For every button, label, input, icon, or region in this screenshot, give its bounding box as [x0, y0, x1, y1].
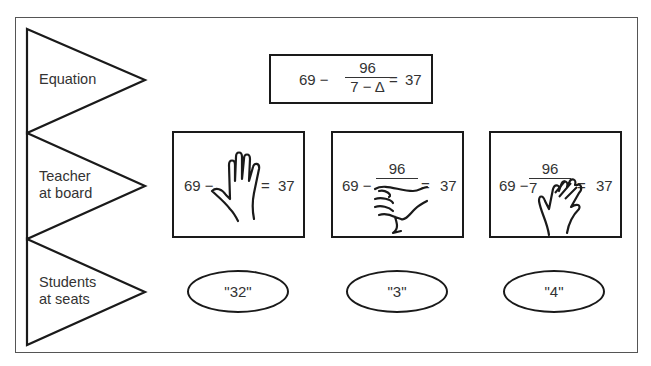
row-label-students: Students at seats	[39, 274, 96, 308]
hand-covering-denominator-icon	[371, 181, 435, 235]
hand-covering-delta-icon	[535, 173, 585, 237]
fraction-numerator: 96	[376, 161, 418, 177]
board-fraction: 96	[376, 161, 418, 180]
equation-box: 69 − 96 7 − Δ = 37	[269, 54, 433, 104]
equation-right: 37	[405, 71, 422, 88]
equation-fraction: 96 7 − Δ	[345, 60, 390, 95]
student-answer-2: "3"	[346, 270, 448, 313]
hand-covering-fraction-icon	[210, 143, 266, 223]
board-left: 69 −	[499, 177, 529, 194]
fraction-denominator: 7 − Δ	[345, 79, 390, 95]
teacher-board-1: 69 − = 37	[172, 131, 305, 238]
row-label-equation: Equation	[39, 71, 96, 88]
board-right: 37	[278, 177, 295, 194]
equation-left: 69 −	[299, 71, 329, 88]
fraction-bar	[376, 178, 418, 179]
row-label-teacher: Teacher at board	[39, 168, 92, 202]
student-answer-3: "4"	[503, 270, 605, 313]
equation-equals: =	[389, 71, 398, 88]
fraction-numerator: 96	[345, 60, 390, 76]
board-right: 37	[596, 177, 613, 194]
student-answer-1: "32"	[187, 270, 289, 313]
board-left: 69 −	[342, 177, 372, 194]
teacher-board-2: 69 − 96 = 37	[331, 131, 464, 238]
board-right: 37	[440, 177, 457, 194]
teacher-board-3: 69 − 96 7 = 37	[489, 131, 622, 238]
